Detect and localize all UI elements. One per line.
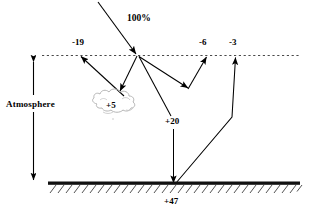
label-absorbed-clouds-5: +5 bbox=[106, 101, 116, 110]
label-reflected-3: -3 bbox=[229, 38, 237, 47]
label-reflected-6: -6 bbox=[199, 38, 207, 47]
diagram-canvas: 100% -19 -6 -3 +5 +20 +47 Atmosphere bbox=[0, 0, 310, 215]
label-atmosphere: Atmosphere bbox=[6, 100, 55, 109]
label-incoming-100: 100% bbox=[127, 14, 151, 24]
label-absorbed-atmosphere-20: +20 bbox=[165, 117, 179, 126]
earth-surface-bar bbox=[48, 182, 300, 185]
atmosphere-absorption-ray bbox=[139, 57, 171, 117]
absorption-cloud-arrow bbox=[120, 56, 137, 91]
incoming-solar-arrow bbox=[98, 2, 136, 54]
scatter-to-cloudtop-arrow bbox=[139, 57, 188, 89]
reflected-6-arrow bbox=[188, 57, 207, 89]
surface-reflection-3-path bbox=[176, 58, 236, 184]
ground-hatching bbox=[50, 185, 302, 193]
label-reflected-19: -19 bbox=[72, 38, 84, 47]
label-absorbed-surface-47: +47 bbox=[164, 197, 178, 206]
